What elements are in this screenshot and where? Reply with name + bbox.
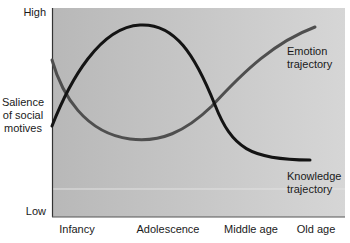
x-tick-old-age: Old age [297, 223, 336, 236]
y-title-line1: Salience [0, 96, 46, 109]
emotion-trajectory-label: Emotion trajectory [287, 45, 332, 71]
knowledge-label-line2: trajectory [287, 183, 341, 196]
x-tick-middle-age: Middle age [224, 223, 278, 236]
y-tick-high: High [2, 6, 46, 19]
y-tick-low: Low [2, 205, 46, 218]
emotion-label-line2: trajectory [287, 58, 332, 71]
chart: High Salience of social motives Low Infa… [0, 0, 350, 243]
x-tick-adolescence: Adolescence [137, 223, 200, 236]
knowledge-label-line1: Knowledge [287, 170, 341, 183]
y-title-line3: motives [0, 122, 46, 135]
y-title-line2: of social [0, 109, 46, 122]
emotion-label-line1: Emotion [287, 45, 332, 58]
y-axis-title: Salience of social motives [0, 96, 46, 135]
x-tick-infancy: Infancy [59, 223, 94, 236]
plot-svg [0, 0, 350, 243]
knowledge-trajectory-label: Knowledge trajectory [287, 170, 341, 196]
